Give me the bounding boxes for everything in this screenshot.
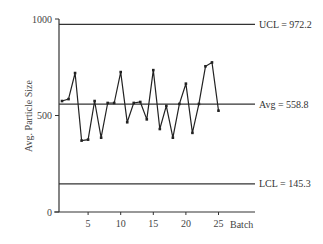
control-lines: UCL = 972.2Avg = 558.8LCL = 145.3 [59, 19, 312, 190]
data-point [67, 98, 70, 101]
data-point [74, 72, 77, 75]
x-tick-label: 10 [116, 218, 126, 229]
x-tick-label: 15 [148, 218, 158, 229]
data-point [100, 136, 103, 139]
data-point [178, 103, 181, 106]
data-point [159, 128, 162, 131]
lcl-label: LCL = 145.3 [259, 178, 311, 189]
data-point [93, 100, 96, 103]
data-point [191, 132, 194, 135]
data-point [139, 101, 142, 104]
data-point [113, 102, 116, 105]
data-point [145, 118, 148, 121]
data-point [87, 138, 90, 141]
x-tick-label: 25 [214, 218, 224, 229]
x-tick-label: 5 [86, 218, 91, 229]
data-point [204, 65, 207, 68]
data-series [61, 61, 220, 142]
y-tick-label: 500 [37, 110, 52, 121]
ucl-label: UCL = 972.2 [259, 19, 312, 30]
data-point [172, 136, 175, 139]
data-point [80, 139, 83, 142]
data-point [106, 102, 109, 105]
x-tick-label: 20 [181, 218, 191, 229]
data-point [211, 61, 214, 64]
axes: 05001000510152025 [32, 14, 255, 230]
data-point [61, 100, 64, 103]
data-point [217, 109, 220, 112]
y-tick-label: 1000 [32, 14, 52, 25]
y-tick-label: 0 [47, 207, 52, 218]
data-point [126, 121, 129, 124]
data-point [119, 71, 122, 74]
data-point [165, 105, 168, 108]
x-axis-title: Batch [230, 219, 253, 230]
y-axis-title: Avg. Particle Size [23, 80, 34, 152]
data-point [198, 103, 201, 106]
data-point [132, 102, 135, 105]
control-chart: 05001000510152025 UCL = 972.2Avg = 558.8… [0, 0, 323, 244]
avg-label: Avg = 558.8 [259, 99, 309, 110]
data-point [152, 69, 155, 72]
data-point [185, 82, 188, 85]
